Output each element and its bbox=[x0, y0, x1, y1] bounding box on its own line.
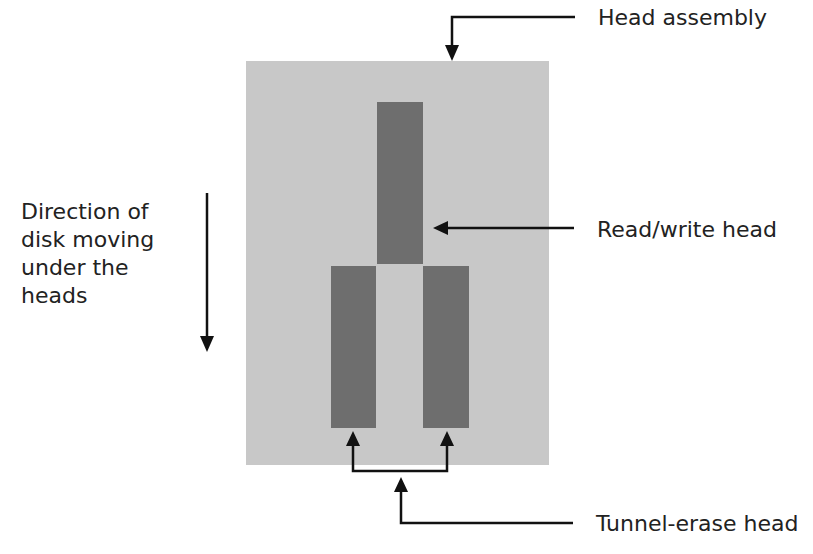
read-write-head-label: Read/write head bbox=[597, 216, 777, 244]
direction-line-2: disk moving bbox=[21, 226, 154, 254]
head-assembly-arrow bbox=[445, 17, 575, 61]
tunnel-erase-head-right-block bbox=[423, 266, 469, 428]
read-write-head-block bbox=[377, 102, 423, 264]
tunnel-erase-head-label: Tunnel-erase head bbox=[596, 510, 799, 538]
direction-line-1: Direction of bbox=[21, 198, 154, 226]
head-assembly-label: Head assembly bbox=[598, 4, 767, 32]
direction-line-3: under the bbox=[21, 254, 154, 282]
direction-line-4: heads bbox=[21, 282, 154, 310]
direction-arrow bbox=[200, 193, 214, 352]
tunnel-erase-head-left-block bbox=[331, 266, 376, 428]
direction-label: Direction of disk moving under the heads bbox=[21, 198, 154, 310]
